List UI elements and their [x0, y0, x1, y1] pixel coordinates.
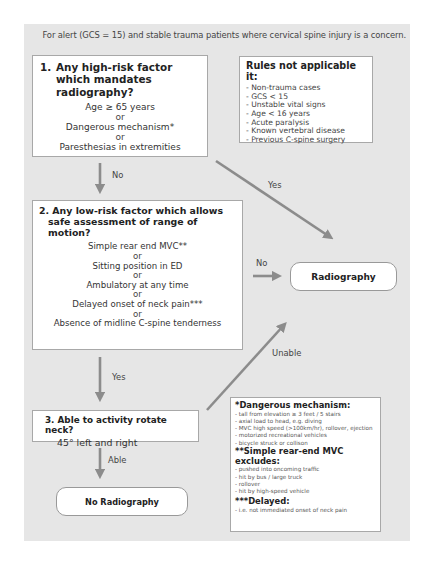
- rule-item: - Previous C-spine surgery: [246, 136, 366, 145]
- label-q2-no: No: [256, 258, 267, 268]
- rules-title: Rules not applicable it:: [246, 60, 366, 82]
- question-3-box: 3. Able to activity rotate neck? 45° lef…: [32, 410, 199, 442]
- note-item: - motorized recreational vehicles: [235, 432, 376, 439]
- question-1-title: 1. Any high-risk factor which mandates r…: [33, 56, 207, 98]
- note-rear-end-title: **Simple rear-end MVC excludes:: [235, 447, 376, 466]
- question-2-title: 2. Any low-risk factor which allows safe…: [33, 201, 242, 238]
- intro-text: For alert (GCS = 15) and stable trauma p…: [24, 30, 410, 40]
- question-2-criteria: Simple rear end MVC** or Sitting positio…: [33, 242, 242, 329]
- note-delayed-title: ***Delayed:: [235, 497, 376, 507]
- exclusion-rules-box: Rules not applicable it: - Non-trauma ca…: [239, 56, 373, 143]
- label-q3-unable: Unable: [272, 348, 301, 358]
- note-dangerous-title: *Dangerous mechanism:: [235, 401, 376, 411]
- note-item: - MVC high speed (>100km/hr), rollover, …: [235, 425, 376, 432]
- note-item: - tall from elevation ≥ 3 feet / 5 stair…: [235, 411, 376, 418]
- question-2-box: 2. Any low-risk factor which allows safe…: [32, 200, 243, 350]
- question-3-detail: 45° left and right: [45, 437, 198, 448]
- note-item: - pushed into oncoming traffic: [235, 466, 376, 473]
- label-q3-able: Able: [108, 455, 127, 465]
- label-q1-no: No: [112, 170, 123, 180]
- label-q1-yes: Yes: [268, 180, 282, 190]
- question-1-box: 1. Any high-risk factor which mandates r…: [32, 55, 208, 157]
- note-item: - axial load to head, e.g. diving: [235, 418, 376, 425]
- footnotes-box: *Dangerous mechanism: - tall from elevat…: [230, 397, 381, 532]
- note-item: - i.e. not immediated onset of neck pain: [235, 507, 376, 514]
- outcome-radiography: Radiography: [290, 262, 397, 291]
- note-item: - rollover: [235, 481, 376, 488]
- question-3-title: 3. Able to activity rotate neck?: [45, 415, 198, 436]
- question-1-criteria: Age ≥ 65 years or Dangerous mechanism* o…: [33, 102, 207, 152]
- note-item: - hit by bus / large truck: [235, 474, 376, 481]
- note-item: - hit by high-speed vehicle: [235, 488, 376, 495]
- label-q2-yes: Yes: [112, 372, 126, 382]
- outcome-no-radiography: No Radiography: [56, 487, 188, 516]
